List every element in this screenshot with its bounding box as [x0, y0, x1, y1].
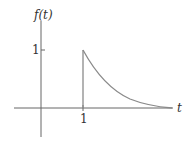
y-axis-label: f(t)	[34, 9, 53, 21]
y-tick-label-1: 1	[32, 44, 40, 56]
x-axis-label: t	[177, 102, 182, 114]
chart-plot	[0, 0, 189, 143]
decay-curve	[83, 50, 172, 108]
x-tick-label-1: 1	[80, 113, 88, 125]
